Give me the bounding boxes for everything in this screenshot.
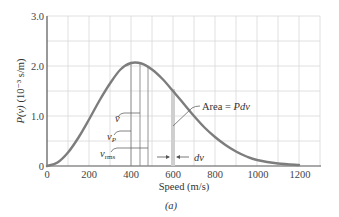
vp-leader [114, 131, 131, 135]
dv-label: dv [194, 152, 204, 163]
y-tick-labels: 0 1.0 2.0 3.0 [31, 11, 44, 172]
dv-arrowhead-right [176, 155, 180, 159]
dv-arrowhead-left [166, 155, 170, 159]
x-axis-title: Speed (m/s) [159, 181, 210, 193]
svg-text:600: 600 [165, 169, 181, 180]
vrms-leader [111, 148, 148, 152]
chart: v̄ vP vrms Area = Pdv dv 0 200 400 600 8… [0, 0, 339, 217]
svg-text:800: 800 [207, 169, 223, 180]
grid [47, 16, 320, 166]
svg-text:2.0: 2.0 [31, 61, 44, 72]
figure-caption: (a) [165, 200, 178, 212]
vbar-label: v̄ [115, 113, 120, 124]
area-strip [171, 89, 175, 166]
svg-text:200: 200 [81, 169, 97, 180]
area-label: Area = Pdv [202, 101, 250, 112]
svg-text:1200: 1200 [290, 169, 311, 180]
svg-text:0: 0 [39, 161, 44, 172]
svg-text:1.0: 1.0 [31, 111, 44, 122]
x-tick-labels: 0 200 400 600 800 1000 1200 [44, 169, 310, 180]
svg-text:0: 0 [44, 169, 49, 180]
y-axis-title: P(v)(10⁻³ s/m) [15, 58, 27, 125]
svg-text:400: 400 [123, 169, 139, 180]
svg-text:3.0: 3.0 [31, 11, 44, 22]
svg-text:1000: 1000 [248, 169, 269, 180]
vrms-label: vrms [100, 148, 115, 161]
